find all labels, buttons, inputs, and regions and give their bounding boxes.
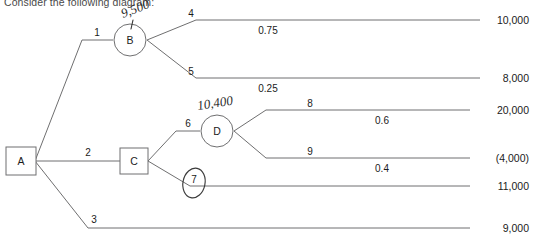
edge-branch-9: [234, 131, 470, 158]
probability-branch-4: 0.75: [258, 25, 278, 36]
probability-branch-9: 0.4: [375, 163, 389, 174]
branch-number-5: 5: [188, 66, 194, 77]
branch-number-1: 1: [94, 27, 100, 38]
node-a-label: A: [17, 155, 24, 167]
probability-branch-5: 0.25: [258, 83, 278, 94]
payoff-branch-3: 9,000: [503, 222, 529, 234]
payoff-branch-9: (4,000): [496, 152, 529, 164]
branch-number-9: 9: [307, 146, 313, 157]
branch-number-8: 8: [307, 98, 313, 109]
node-d-label: D: [213, 125, 221, 137]
payoff-branch-4: 10,000: [497, 14, 529, 26]
node-c-label: C: [130, 155, 138, 167]
payoff-branch-8: 20,000: [497, 104, 529, 116]
edge-branch-8: [234, 110, 470, 131]
edge-branch-3: [35, 161, 470, 228]
edge-branch-6: [148, 131, 200, 161]
branch-number-7: 7: [191, 174, 197, 185]
edge-branch-5: [147, 40, 480, 78]
branch-number-6: 6: [185, 118, 191, 129]
probability-branch-8: 0.6: [375, 115, 389, 126]
annotation-ev-d: 10,400: [196, 92, 234, 112]
decision-tree-diagram: Consider the following diagram: A B C D …: [0, 0, 533, 246]
branch-number-3: 3: [91, 214, 97, 225]
edge-branch-4: [147, 20, 480, 40]
payoff-branch-7: 11,000: [498, 180, 529, 192]
node-b-label: B: [126, 34, 133, 46]
annotation-ev-b: 9,500: [119, 0, 152, 21]
edge-branch-1: [35, 40, 113, 161]
branch-number-2: 2: [85, 147, 91, 158]
decision-tree-svg: A B C D 1 2 3 4 5 6 7 8 9 0.75 0.25 0.6 …: [0, 0, 533, 246]
payoff-branch-5: 8,000: [503, 72, 529, 84]
branch-number-4: 4: [188, 8, 194, 19]
